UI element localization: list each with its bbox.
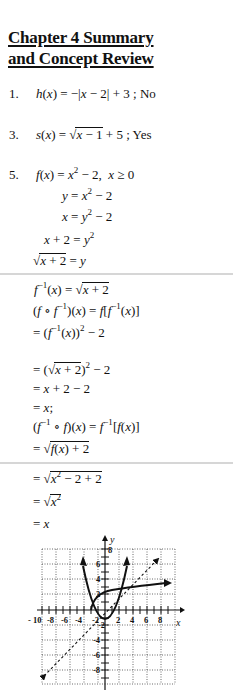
svg-text:-6: -6 — [93, 650, 100, 660]
function-graph: - 10 -8 -6 -4 -2 2 4 6 8 8 6 4 2 -2 -4 -… — [0, 0, 233, 694]
svg-text:-6: -6 — [61, 615, 68, 625]
svg-text:6: 6 — [96, 559, 100, 569]
y-tick-label: 8 — [108, 545, 112, 555]
svg-text:-8: -8 — [47, 615, 54, 625]
svg-text:2: 2 — [116, 615, 120, 625]
svg-text:-4: -4 — [93, 635, 101, 645]
y-axis-label: y — [109, 534, 115, 545]
svg-text:-8: -8 — [93, 665, 100, 675]
svg-text:8: 8 — [158, 615, 162, 625]
svg-text:-4: -4 — [75, 615, 83, 625]
x-tick-label: - 10 — [28, 615, 41, 625]
svg-text:6: 6 — [144, 615, 148, 625]
x-axis-label: x — [175, 617, 181, 628]
svg-text:4: 4 — [130, 615, 135, 625]
svg-text:-2: -2 — [98, 620, 105, 630]
